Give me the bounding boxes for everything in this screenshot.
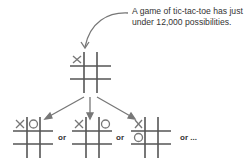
o-mark-icon [135, 134, 143, 142]
curved-arrow-icon [81, 13, 128, 48]
x-mark-icon [135, 120, 142, 128]
or-label-2: or [116, 133, 124, 142]
o-mark-icon [102, 120, 110, 128]
or-label-3: or ... [180, 133, 197, 142]
x-mark-icon [75, 120, 83, 128]
x-mark-icon [73, 56, 81, 63]
or-label-1: or [58, 133, 66, 142]
branch-arrows-icon [45, 97, 135, 119]
o-mark-icon [30, 120, 38, 128]
x-mark-icon [16, 120, 24, 128]
